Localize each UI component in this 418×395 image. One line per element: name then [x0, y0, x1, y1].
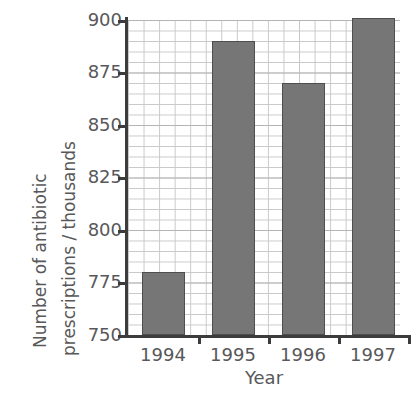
x-tick-mark-4: [408, 335, 411, 344]
bar-1997: [352, 18, 395, 335]
y-tick-mark-750: [118, 335, 128, 338]
bar-1995: [212, 41, 255, 335]
x-tick-label-1997: 1997: [338, 345, 408, 365]
y-axis-tick-labels: 750 775 800 825 850 875 900: [64, 0, 122, 360]
x-tick-mark-2: [268, 335, 271, 344]
x-tick-mark-3: [338, 335, 341, 344]
y-tick-label-800: 800: [64, 221, 122, 239]
bar-chart: Number of antibiotic prescriptions / tho…: [0, 0, 418, 395]
x-tick-label-1994: 1994: [128, 345, 198, 365]
y-tick-mark-900: [118, 20, 128, 23]
y-tick-label-750: 750: [64, 326, 122, 344]
bar-1996: [282, 83, 325, 335]
y-tick-label-850: 850: [64, 116, 122, 134]
y-tick-label-875: 875: [64, 63, 122, 81]
y-tick-mark-775: [118, 282, 128, 285]
x-tick-label-1996: 1996: [268, 345, 338, 365]
y-tick-mark-825: [118, 177, 128, 180]
bar-1994: [142, 272, 185, 335]
plot-area: [128, 20, 400, 335]
y-tick-mark-875: [118, 72, 128, 75]
x-axis-title: Year: [128, 367, 400, 388]
y-tick-label-775: 775: [64, 273, 122, 291]
y-tick-mark-850: [118, 125, 128, 128]
y-tick-mark-800: [118, 230, 128, 233]
x-tick-label-1995: 1995: [198, 345, 268, 365]
x-tick-mark-1: [198, 335, 201, 344]
y-tick-label-825: 825: [64, 168, 122, 186]
y-axis-title-line-1: Number of antibiotic: [30, 173, 50, 348]
y-tick-label-900: 900: [64, 11, 122, 29]
